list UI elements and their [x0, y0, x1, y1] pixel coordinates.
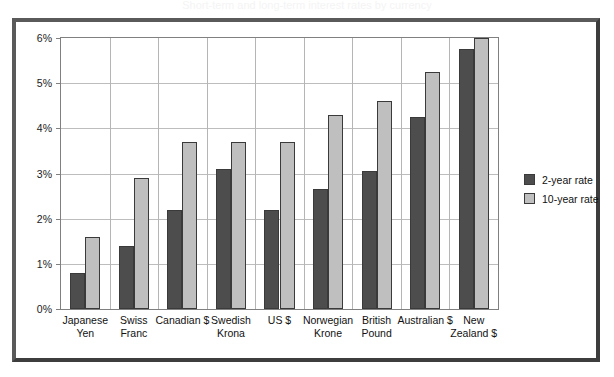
y-axis-tick-label: 0%: [37, 303, 52, 315]
legend-swatch-icon: [524, 174, 535, 185]
category-separator: [304, 38, 305, 309]
legend-label: 10-year rate: [542, 193, 599, 205]
legend-label: 2-year rate: [542, 174, 593, 186]
y-axis-tick: [56, 309, 61, 310]
bar: [328, 115, 343, 309]
chart-plot-container: 0%1%2%3%4%5%6% JapaneseYenSwissFrancCana…: [16, 22, 596, 358]
bar: [410, 117, 425, 309]
y-axis-tick-label: 2%: [37, 213, 52, 225]
bar: [362, 171, 377, 309]
y-axis-tick: [56, 174, 61, 175]
x-axis-category-label: SwissFranc: [120, 314, 147, 340]
plot-area: 0%1%2%3%4%5%6% JapaneseYenSwissFrancCana…: [60, 37, 499, 310]
category-separator: [255, 38, 256, 309]
y-axis-tick-label: 1%: [37, 258, 52, 270]
y-axis-tick-label: 4%: [37, 122, 52, 134]
bar: [119, 246, 134, 309]
y-axis-tick: [56, 264, 61, 265]
bar: [85, 237, 100, 309]
y-axis-tick-label: 3%: [37, 168, 52, 180]
y-axis-tick-label: 6%: [37, 32, 52, 44]
bar: [167, 210, 182, 309]
category-separator: [449, 38, 450, 309]
category-separator: [158, 38, 159, 309]
y-axis-tick: [56, 128, 61, 129]
bar: [264, 210, 279, 309]
x-axis-category-label: JapaneseYen: [62, 314, 108, 340]
x-axis-category-label: US $: [268, 314, 291, 327]
chart-title: Short-term and long-term interest rates …: [0, 0, 614, 11]
bar: [425, 72, 440, 309]
bar: [216, 169, 231, 309]
x-axis-category-label: NorwegianKrone: [303, 314, 353, 340]
legend-swatch-icon: [524, 193, 535, 204]
x-axis-category-label: Australian $: [397, 314, 452, 327]
chart-frame: 0%1%2%3%4%5%6% JapaneseYenSwissFrancCana…: [12, 18, 600, 362]
category-separator: [110, 38, 111, 309]
bar: [377, 101, 392, 309]
bar: [134, 178, 149, 309]
bar: [231, 142, 246, 309]
category-separator: [207, 38, 208, 309]
bar: [313, 189, 328, 309]
chart-legend: 2-year rate10-year rate: [524, 170, 599, 208]
bar: [459, 49, 474, 309]
x-axis-category-label: SwedishKrona: [211, 314, 251, 340]
x-axis-category-label: NewZealand $: [450, 314, 497, 340]
x-axis-category-label: Canadian $: [156, 314, 210, 327]
legend-item[interactable]: 10-year rate: [524, 189, 599, 208]
bar: [280, 142, 295, 309]
bar: [182, 142, 197, 309]
bar: [70, 273, 85, 309]
y-axis-tick: [56, 219, 61, 220]
x-axis-category-label: BritishPound: [361, 314, 391, 340]
y-axis-tick-label: 5%: [37, 77, 52, 89]
legend-item[interactable]: 2-year rate: [524, 170, 599, 189]
category-separator: [352, 38, 353, 309]
category-separator: [401, 38, 402, 309]
bar: [474, 38, 489, 309]
y-axis-tick: [56, 38, 61, 39]
y-axis-tick: [56, 83, 61, 84]
